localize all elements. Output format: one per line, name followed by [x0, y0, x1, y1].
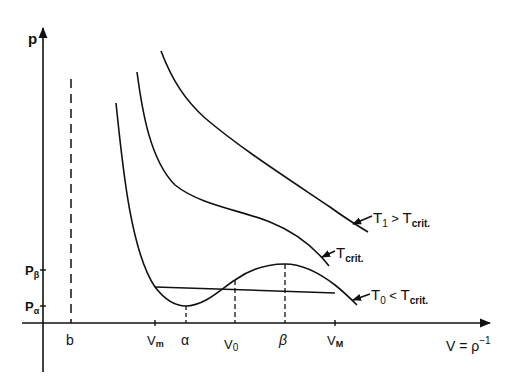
t1-label: T1 > Tcrit.	[373, 209, 430, 229]
tcrit-label: Tcrit.	[336, 244, 364, 264]
x-axis-label: V = ρ−1	[446, 335, 491, 354]
x-tick-label-beta: β	[278, 332, 287, 348]
maxwell-tie-line	[155, 287, 335, 293]
isotherm-t1	[161, 51, 368, 232]
x-tick-label-vm: Vm	[147, 333, 164, 349]
x-tick-label-b: b	[66, 332, 74, 348]
x-tick-label-v0: V0	[224, 337, 239, 353]
x-tick-label-vM: VM	[327, 333, 343, 349]
t0-pointer-arrow	[353, 294, 370, 300]
y-axis-label: p	[28, 30, 37, 47]
y-tick-label-p-beta: Pβ	[25, 263, 40, 280]
y-tick-label-p-alpha: Pα	[25, 299, 40, 316]
isotherm-t0	[116, 103, 357, 306]
tcrit-pointer-arrow	[322, 251, 335, 257]
x-tick-label-alpha: α	[181, 332, 189, 348]
t0-label: T0 < Tcrit.	[371, 286, 428, 306]
t1-pointer-arrow	[353, 216, 372, 224]
isotherm-tcrit	[137, 72, 329, 266]
pv-diagram: p V = ρ−1 Pβ Pα b Vm α V0 β VM T1 > Tcri…	[0, 0, 512, 389]
